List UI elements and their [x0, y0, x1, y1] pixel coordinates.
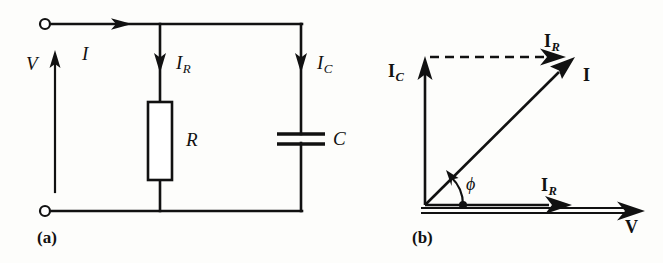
voltage-axis-label: V [625, 218, 638, 236]
phasor-ic-label: IC [388, 62, 404, 83]
top-terminal [40, 19, 50, 29]
resistor-label: R [186, 130, 198, 149]
capacitor-label: C [333, 129, 346, 148]
phase-angle-label: ϕ [466, 175, 475, 193]
phasor-ir-top-label: IR [544, 32, 560, 53]
resistor-current-label: IR [176, 53, 191, 75]
phasor-i-label: I [583, 66, 590, 84]
panel-b-caption: (b) [412, 229, 433, 246]
phasor-diagram [418, 49, 646, 221]
figure-container: V I IR IC R C (a) IC IR I IR ϕ V (b) [0, 0, 663, 263]
phasor-ic-label-base: I [388, 61, 395, 81]
phasor-i-shaft [425, 72, 559, 205]
phasor-ir-bottom-label-base: I [541, 175, 548, 195]
phasor-ir-top-label-sub: R [552, 40, 560, 54]
figure-graphics [0, 0, 663, 263]
resistor-current-label-sub: R [183, 61, 191, 76]
phase-angle-origin-dot [459, 201, 467, 209]
phasor-ir-bottom-label-sub: R [549, 184, 557, 198]
phase-angle-arc [451, 177, 463, 205]
resistor-current-label-base: I [176, 52, 182, 73]
phasor-ir-arrow-head [545, 196, 572, 214]
panel-a-caption: (a) [37, 229, 57, 246]
capacitor-current-label-base: I [317, 52, 323, 73]
resistor-symbol [148, 102, 172, 180]
phasor-ir-top-label-base: I [544, 31, 551, 51]
phasor-ic-label-sub: C [396, 70, 404, 84]
capacitor-current-label-sub: C [324, 61, 333, 76]
phasor-ir-bottom-label: IR [541, 176, 557, 197]
total-current-label: I [82, 44, 88, 63]
bottom-terminal [40, 206, 50, 216]
voltage-label: V [26, 54, 38, 73]
capacitor-current-label: IC [317, 53, 333, 75]
